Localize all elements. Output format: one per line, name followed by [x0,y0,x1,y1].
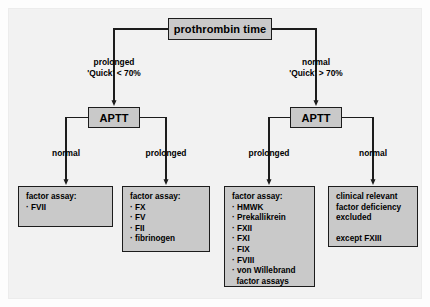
list-item: Prekallikrein [232,213,308,224]
node-aptt-left[interactable]: APTT [88,107,140,128]
edge-label-root-normal-line2: 'Quick' > 70% [266,68,366,79]
edge-label-aptt-left-normal: normal [26,148,106,159]
leaf-4-line-1: clinical relevant [336,192,411,203]
list-item: HMWK [232,203,308,214]
list-item: FXI [232,234,308,245]
leaf-4-line-3: excluded [336,213,411,224]
edge-label-root-normal-line1: normal [266,57,366,68]
leaf-factor-assay-intrinsic[interactable]: factor assay: HMWK Prekallikrein FXII FX… [224,186,315,287]
edge-label-root-prolonged: prolonged 'Quick' < 70% [64,57,164,79]
list-item: von Willebrand [232,266,308,277]
leaf-1-heading: factor assay: [26,192,106,203]
list-item: FX [130,203,203,214]
list-item: FV [130,213,203,224]
list-item: FVIII [232,256,308,267]
list-item: FVII [26,203,106,214]
node-aptt-left-label: APTT [99,112,128,124]
list-item: FIX [232,245,308,256]
leaf-4-spacer [336,224,411,234]
edge-label-root-normal: normal 'Quick' > 70% [266,57,366,79]
leaf-factor-assay-fvii[interactable]: factor assay: FVII [18,186,113,227]
leaf-no-deficiency[interactable]: clinical relevant factor deficiency excl… [328,186,418,247]
edge-label-root-prolonged-line2: 'Quick' < 70% [64,68,164,79]
edge-label-root-prolonged-line1: prolonged [64,57,164,68]
node-prothrombin-time[interactable]: prothrombin time [168,18,272,40]
node-aptt-right[interactable]: APTT [290,107,342,128]
leaf-3-heading: factor assay: [232,192,308,203]
list-item-continuation: factor assays [232,277,308,288]
leaf-1-list: FVII [26,203,106,214]
leaf-3-list: HMWK Prekallikrein FXII FXI FIX FVIII vo… [232,203,308,288]
leaf-2-heading: factor assay: [130,192,203,203]
leaf-2-list: FX FV FII fibrinogen [130,203,203,245]
diagram-canvas: prothrombin time APTT APTT prolonged 'Qu… [0,0,430,307]
edge-label-aptt-right-normal: normal [333,148,413,159]
edge-label-aptt-left-prolonged: prolonged [126,148,206,159]
list-item: FII [130,224,203,235]
leaf-4-footer: except FXIII [336,234,411,245]
edge-label-aptt-right-prolonged: prolonged [229,148,309,159]
node-aptt-right-label: APTT [301,112,330,124]
list-item: FXII [232,224,308,235]
leaf-4-line-2: factor deficiency [336,203,411,214]
leaf-factor-assay-extrinsic[interactable]: factor assay: FX FV FII fibrinogen [122,186,210,252]
list-item: fibrinogen [130,234,203,245]
node-prothrombin-time-label: prothrombin time [174,23,267,35]
